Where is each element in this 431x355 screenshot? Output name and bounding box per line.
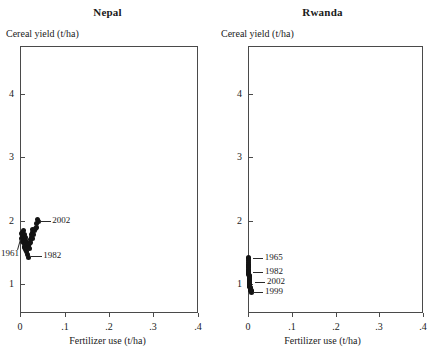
x-tick-.3 [379,313,380,317]
x-ticklabel-.3: .3 [364,322,394,332]
x-ticklabel-0: 0 [5,322,35,332]
y-tick-3 [20,157,25,158]
y-ticklabel-2: 2 [222,216,242,226]
annotation-1965: 1965 [265,253,283,262]
x-ticklabel-.3: .3 [138,322,168,332]
x-tick-.1 [292,313,293,317]
annotation-2002: 2002 [52,216,70,225]
y-tick-2 [248,221,253,222]
leader-line-2002 [40,221,51,222]
y-tick-1 [20,284,25,285]
x-tick-0 [248,313,249,317]
annotation-1982: 1982 [43,251,61,260]
figure-two-panel-scatter: Nepal Cereal yield (t/ha) Fertilizer use… [0,0,431,355]
data-point [30,236,35,241]
y-ticklabel-3: 3 [222,152,242,162]
x-axis-label-rwanda: Fertilizer use (t/ha) [215,335,430,347]
panel-rwanda: Rwanda Cereal yield (t/ha) Fertilizer us… [215,0,430,355]
x-ticklabel-.4: .4 [183,322,213,332]
x-tick-.2 [109,313,110,317]
leader-line-1999 [253,292,263,293]
panel-nepal: Nepal Cereal yield (t/ha) Fertilizer use… [0,0,215,355]
data-point [27,246,32,251]
leader-line-1982 [253,272,263,273]
x-ticklabel-.1: .1 [277,322,307,332]
leader-line-1982 [31,256,42,257]
x-ticklabel-.2: .2 [94,322,124,332]
panel-title-rwanda: Rwanda [215,5,430,19]
x-tick-0 [20,313,21,317]
x-tick-.3 [153,313,154,317]
panel-title-nepal: Nepal [0,5,215,19]
x-ticklabel-0: 0 [233,322,263,332]
x-tick-.2 [336,313,337,317]
y-tick-3 [248,157,253,158]
y-ticklabel-4: 4 [222,89,242,99]
y-axis-label-rwanda: Cereal yield (t/ha) [221,28,294,40]
y-ticklabel-4: 4 [0,89,14,99]
annotation-1961: 1961 [1,249,19,258]
y-tick-4 [248,94,253,95]
y-tick-2 [20,221,25,222]
x-tick-.4 [423,313,424,317]
leader-line-2002 [255,282,265,283]
x-ticklabel-.4: .4 [408,322,431,332]
y-ticklabel-3: 3 [0,152,14,162]
plot-area-nepal [20,46,198,313]
x-tick-.4 [198,313,199,317]
x-ticklabel-.2: .2 [321,322,351,332]
annotation-2002: 2002 [267,277,285,286]
y-axis-label-nepal: Cereal yield (t/ha) [6,28,79,40]
x-tick-.1 [65,313,66,317]
y-ticklabel-1: 1 [0,279,14,289]
y-ticklabel-1: 1 [222,279,242,289]
annotation-1999: 1999 [265,287,283,296]
y-ticklabel-2: 2 [0,216,14,226]
y-tick-4 [20,94,25,95]
x-axis-label-nepal: Fertilizer use (t/ha) [0,335,215,347]
leader-line-1965 [253,258,263,259]
x-ticklabel-.1: .1 [50,322,80,332]
annotation-1982: 1982 [265,267,283,276]
